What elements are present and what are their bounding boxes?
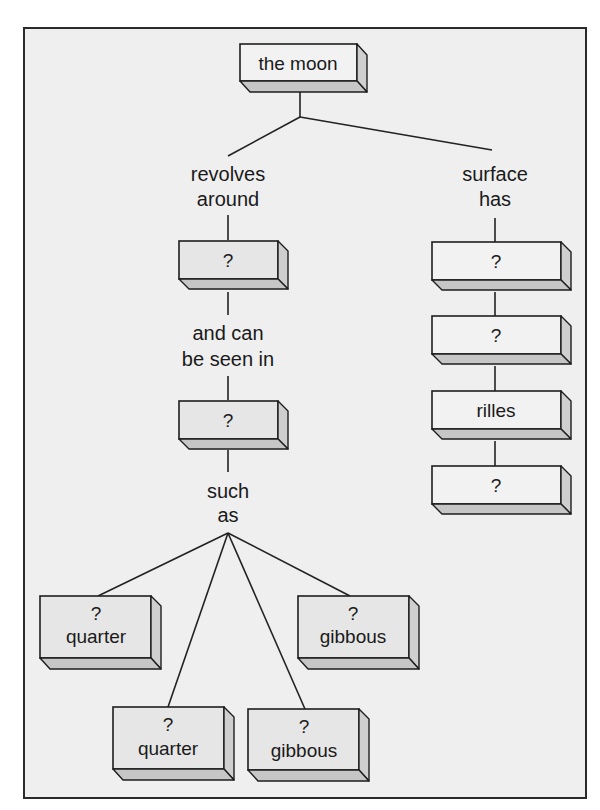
node-label: ? [491,325,502,346]
node-label: the moon [258,53,337,74]
node-right-rilles: rilles [432,391,571,439]
link-label-be-seen-in: be seen in [182,348,274,370]
link-label-as: as [217,504,238,526]
node-label: ? [491,251,502,272]
node-label: ? [491,475,502,496]
node-label: ? [163,714,174,735]
link-label-revolves: revolves [191,163,265,185]
node-label: ? [223,250,234,271]
link-label-such: such [207,480,249,502]
node-label: gibbous [271,740,338,761]
node-the-moon: the moon [240,44,367,92]
node-right-2: ? [432,316,571,364]
node-label: rilles [476,400,515,421]
link-label-surface: surface [462,163,528,185]
link-label-around: around [197,188,259,210]
leaf-node-1: ? quarter [40,596,161,669]
node-left-2: ? [179,401,288,449]
leaf-node-4: ? gibbous [298,596,419,669]
node-right-1: ? [432,242,571,290]
node-label: ? [223,410,234,431]
node-label: ? [348,603,359,624]
leaf-node-2: ? quarter [113,707,234,780]
node-left-1: ? [179,241,288,289]
node-label: ? [299,716,310,737]
node-label: quarter [66,626,127,647]
node-label: quarter [138,738,199,759]
concept-map: the moon revolves around ? and can be se… [0,0,600,810]
node-label: gibbous [320,626,387,647]
node-right-4: ? [432,466,571,514]
leaf-node-3: ? gibbous [248,709,369,781]
node-label: ? [91,603,102,624]
link-label-and-can: and can [192,322,263,344]
link-label-has: has [479,188,511,210]
